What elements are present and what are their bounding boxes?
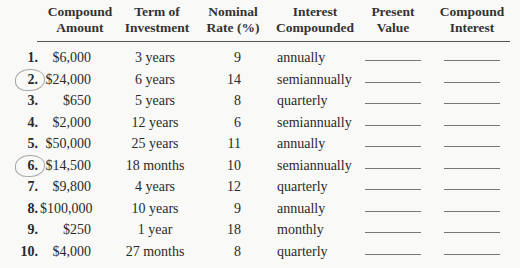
nominal-rate: 11 — [200, 133, 241, 154]
interest-compounded: monthly — [277, 219, 367, 240]
table-row: 10.$4,00027 months8quarterly — [0, 241, 520, 262]
compound-amount: $6,000 — [40, 47, 91, 68]
nominal-rate: 10 — [200, 155, 241, 176]
compound-interest-blank[interactable] — [444, 211, 500, 212]
term-of-investment: 6 years — [100, 69, 210, 90]
present-value-blank[interactable] — [365, 254, 421, 255]
table-row: 6.$14,50018 months10semiannually — [0, 155, 520, 176]
nominal-rate: 18 — [200, 219, 241, 240]
compound-interest-blank[interactable] — [444, 82, 500, 83]
table-row: 9.$2501 year18monthly — [0, 219, 520, 240]
nominal-rate: 12 — [200, 176, 241, 197]
compound-amount: $250 — [40, 219, 91, 240]
present-value-blank[interactable] — [365, 146, 421, 147]
term-of-investment: 3 years — [100, 47, 210, 68]
header-line: Interest — [272, 4, 358, 20]
compound-interest-blank[interactable] — [444, 60, 500, 61]
header-line: Rate (%) — [203, 20, 263, 36]
term-of-investment: 5 years — [100, 90, 210, 111]
compound-interest-table: Compound Amount Term of Investment Nomin… — [0, 0, 520, 268]
nominal-rate: 8 — [200, 241, 241, 262]
compound-amount: $50,000 — [40, 133, 91, 154]
interest-compounded: quarterly — [277, 176, 367, 197]
nominal-rate: 9 — [200, 47, 241, 68]
compound-amount: $14,500 — [40, 155, 91, 176]
header-compound-interest: Compound Interest — [436, 4, 508, 36]
header-line: Term of — [122, 4, 192, 20]
nominal-rate: 14 — [200, 69, 241, 90]
header-divider — [37, 41, 510, 42]
interest-compounded: semiannually — [277, 155, 367, 176]
term-of-investment: 4 years — [100, 176, 210, 197]
row-number: 1. — [8, 47, 38, 68]
row-number: 7. — [8, 176, 38, 197]
row-number: 10. — [8, 241, 38, 262]
table-row: 4.$2,00012 years6semiannually — [0, 112, 520, 133]
header-line: Compound — [436, 4, 508, 20]
header-line: Investment — [122, 20, 192, 36]
term-of-investment: 27 months — [100, 241, 210, 262]
header-line: Interest — [436, 20, 508, 36]
compound-amount: $2,000 — [40, 112, 91, 133]
interest-compounded: semiannually — [277, 69, 367, 90]
term-of-investment: 25 years — [100, 133, 210, 154]
compound-interest-blank[interactable] — [444, 189, 500, 190]
header-present-value: Present Value — [364, 4, 422, 36]
header-rate: Nominal Rate (%) — [203, 4, 263, 36]
compound-interest-blank[interactable] — [444, 232, 500, 233]
header-line: Amount — [44, 20, 116, 36]
header-compound-amount: Compound Amount — [44, 4, 116, 36]
row-number: 4. — [8, 112, 38, 133]
present-value-blank[interactable] — [365, 103, 421, 104]
interest-compounded: semiannually — [277, 112, 367, 133]
table-row: 1.$6,0003 years9annually — [0, 47, 520, 68]
table-row: 3.$6505 years8quarterly — [0, 90, 520, 111]
compound-interest-blank[interactable] — [444, 146, 500, 147]
interest-compounded: quarterly — [277, 90, 367, 111]
term-of-investment: 10 years — [100, 198, 210, 219]
compound-interest-blank[interactable] — [444, 125, 500, 126]
header-line: Present — [364, 4, 422, 20]
header-line: Compound — [44, 4, 116, 20]
compound-amount: $24,000 — [40, 69, 91, 90]
table-row: 2.$24,0006 years14semiannually — [0, 69, 520, 90]
compound-amount: $4,000 — [40, 241, 91, 262]
row-number: 9. — [8, 219, 38, 240]
header-term: Term of Investment — [122, 4, 192, 36]
interest-compounded: annually — [277, 198, 367, 219]
term-of-investment: 12 years — [100, 112, 210, 133]
interest-compounded: annually — [277, 133, 367, 154]
header-interest-compounded: Interest Compounded — [272, 4, 358, 36]
compound-interest-blank[interactable] — [444, 254, 500, 255]
present-value-blank[interactable] — [365, 60, 421, 61]
row-number: 3. — [8, 90, 38, 111]
compound-amount: $650 — [40, 90, 91, 111]
hand-drawn-circle-mark — [15, 69, 45, 91]
compound-interest-blank[interactable] — [444, 103, 500, 104]
interest-compounded: annually — [277, 47, 367, 68]
header-line: Compounded — [272, 20, 358, 36]
term-of-investment: 1 year — [100, 219, 210, 240]
compound-interest-blank[interactable] — [444, 168, 500, 169]
header-line: Value — [364, 20, 422, 36]
table-row: 7.$9,8004 years12quarterly — [0, 176, 520, 197]
table-row: 5.$50,00025 years11annually — [0, 133, 520, 154]
present-value-blank[interactable] — [365, 168, 421, 169]
table-row: 8.$100,00010 years9annually — [0, 198, 520, 219]
compound-amount: $100,000 — [40, 198, 91, 219]
term-of-investment: 18 months — [100, 155, 210, 176]
nominal-rate: 8 — [200, 90, 241, 111]
nominal-rate: 9 — [200, 198, 241, 219]
nominal-rate: 6 — [200, 112, 241, 133]
row-number: 8. — [8, 198, 38, 219]
present-value-blank[interactable] — [365, 125, 421, 126]
row-number: 5. — [8, 133, 38, 154]
header-line: Nominal — [203, 4, 263, 20]
compound-amount: $9,800 — [40, 176, 91, 197]
present-value-blank[interactable] — [365, 211, 421, 212]
present-value-blank[interactable] — [365, 82, 421, 83]
interest-compounded: quarterly — [277, 241, 367, 262]
present-value-blank[interactable] — [365, 189, 421, 190]
present-value-blank[interactable] — [365, 232, 421, 233]
hand-drawn-circle-mark — [15, 155, 45, 177]
